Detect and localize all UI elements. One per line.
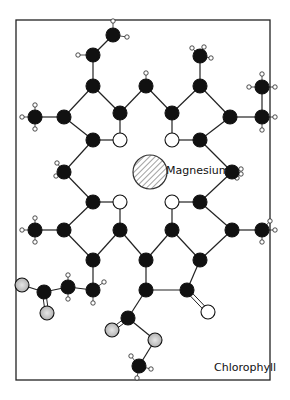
carbon-atom	[180, 283, 194, 297]
hydrogen-atom	[125, 35, 129, 39]
carbon-atom	[37, 285, 51, 299]
carbon-atom	[61, 280, 75, 294]
carbon-atom	[139, 253, 153, 267]
hydrogen-atom	[66, 273, 70, 277]
magnesium-label: Magnesium	[166, 164, 229, 177]
hydrogen-atom	[91, 301, 95, 305]
carbon-atom	[255, 110, 269, 124]
hydrogen-atom	[20, 115, 24, 119]
hydrogen-atom	[33, 240, 37, 244]
hydrogen-atom	[190, 46, 194, 50]
oxygen-atom	[105, 323, 119, 337]
carbon-atom	[132, 359, 146, 373]
hydrogen-atom	[209, 56, 213, 60]
hydrogen-atom	[247, 85, 251, 89]
chlorophyll-molecule-diagram	[0, 0, 290, 400]
nitrogen-atom	[165, 133, 179, 147]
carbon-atom	[86, 253, 100, 267]
hydrogen-atom	[129, 354, 133, 358]
carbon-atom	[193, 79, 207, 93]
nitrogen-atom	[165, 195, 179, 209]
carbon-atom	[255, 223, 269, 237]
hydrogen-atom	[66, 297, 70, 301]
nitrogen-atom	[113, 133, 127, 147]
carbon-atom	[165, 106, 179, 120]
diagram-title: Chlorophyll	[214, 361, 276, 374]
carbon-atom	[165, 223, 179, 237]
magnesium-atom	[133, 155, 167, 189]
carbon-atom	[193, 49, 207, 63]
hydrogen-atom	[20, 228, 24, 232]
hydrogen-atom	[273, 115, 277, 119]
hydrogen-atom	[260, 240, 264, 244]
carbon-atom	[57, 110, 71, 124]
hydrogen-atom	[102, 280, 106, 284]
carbon-atom	[106, 28, 120, 42]
nitrogen-atom	[113, 195, 127, 209]
hydrogen-atom	[239, 167, 243, 171]
carbon-atom	[86, 283, 100, 297]
hydrogen-atoms	[20, 19, 277, 380]
hydrogen-atom	[33, 127, 37, 131]
atoms	[15, 28, 269, 373]
carbon-atom	[113, 223, 127, 237]
hydrogen-atom	[111, 19, 115, 23]
hydrogen-atom	[273, 85, 277, 89]
hydrogen-atom	[33, 103, 37, 107]
diagram-frame	[16, 20, 270, 380]
carbon-atom	[193, 133, 207, 147]
oxygen-atom	[15, 278, 29, 292]
carbon-atom	[139, 283, 153, 297]
carbon-atom	[86, 48, 100, 62]
carbon-atom	[223, 110, 237, 124]
hydrogen-atom	[144, 71, 148, 75]
carbon-atom	[225, 223, 239, 237]
carbon-atom	[28, 223, 42, 237]
carbon-atom	[193, 253, 207, 267]
oxygen-atom	[148, 333, 162, 347]
carbon-atom	[57, 165, 71, 179]
hydrogen-atom	[268, 219, 272, 223]
oxygen-atom	[40, 306, 54, 320]
hydrogen-atom	[202, 45, 206, 49]
carbon-atom	[86, 133, 100, 147]
hydrogen-atom	[273, 228, 277, 232]
hydrogen-atom	[76, 53, 80, 57]
carbon-atom	[255, 80, 269, 94]
carbon-atom	[139, 79, 153, 93]
hydrogen-atom	[260, 72, 264, 76]
carbon-atom	[57, 223, 71, 237]
hydrogen-atom	[33, 216, 37, 220]
hydrogen-atom	[55, 161, 59, 165]
hydrogen-atom	[260, 128, 264, 132]
carbon-atom	[193, 195, 207, 209]
hydrogen-atom	[149, 367, 153, 371]
oxygen-atom	[201, 305, 215, 319]
carbon-atom	[113, 106, 127, 120]
carbon-atom	[86, 195, 100, 209]
carbon-atom	[28, 110, 42, 124]
carbon-atom	[121, 311, 135, 325]
hydrogen-atom	[135, 376, 139, 380]
carbon-atom	[86, 79, 100, 93]
